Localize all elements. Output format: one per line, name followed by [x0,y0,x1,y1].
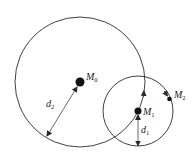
label-m0: M0 [85,71,98,83]
label-d1: d1 [141,124,149,136]
point-m2 [167,97,172,102]
label-m2: M2 [173,89,186,101]
point-m1 [135,108,142,115]
motion-diagram: M0 M1 M2 d2 d1 [0,0,196,165]
label-m1: M1 [142,106,155,118]
point-m0 [76,78,85,87]
label-d2: d2 [46,98,54,110]
d2-dimension-line [47,87,77,136]
